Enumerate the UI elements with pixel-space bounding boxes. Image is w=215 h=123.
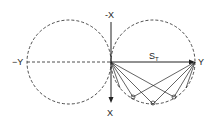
label-neg-x: -X xyxy=(105,10,114,20)
label-pos-x: X xyxy=(107,108,113,118)
construction-lines xyxy=(111,62,195,104)
polar-diagram: -X X −Y Y ST xyxy=(0,0,215,123)
label-st: ST xyxy=(149,51,159,62)
x-arrowhead xyxy=(109,97,114,103)
label-neg-y: −Y xyxy=(12,57,23,67)
label-pos-y: Y xyxy=(198,57,204,67)
